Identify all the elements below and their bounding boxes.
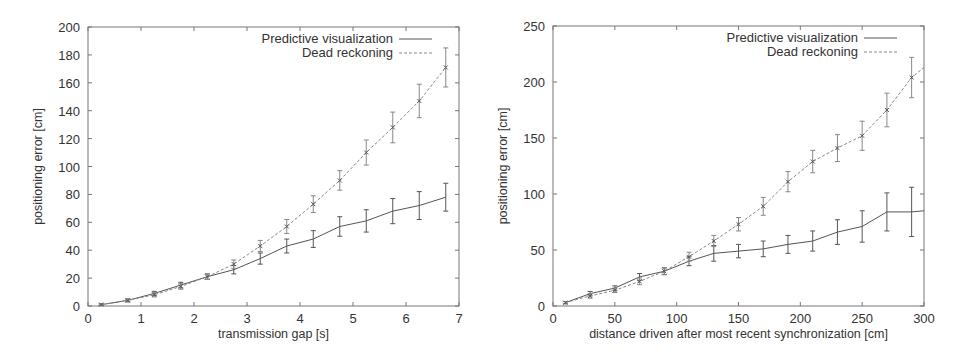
y-axis-label: positioning error [cm] xyxy=(31,108,45,225)
y-tick-label: 100 xyxy=(523,187,545,202)
y-tick-label: 160 xyxy=(58,76,80,91)
chart-transmission-gap: 01234567020406080100120140160180200trans… xyxy=(31,20,463,341)
x-tick-label: 100 xyxy=(666,311,688,326)
legend-predictive-visualization: Predictive visualization xyxy=(726,30,858,45)
y-tick-label: 80 xyxy=(66,187,80,202)
y-tick-label: 50 xyxy=(531,243,545,258)
y-tick-label: 20 xyxy=(66,271,80,286)
legend-predictive-visualization: Predictive visualization xyxy=(261,31,393,46)
x-tick-label: 3 xyxy=(243,311,250,326)
x-tick-label: 0 xyxy=(549,311,556,326)
x-tick-label: 2 xyxy=(190,311,197,326)
y-tick-label: 150 xyxy=(523,131,545,146)
x-tick-label: 200 xyxy=(789,311,811,326)
y-tick-label: 100 xyxy=(58,160,80,175)
x-tick-label: 5 xyxy=(349,311,356,326)
dead-reckoning-line xyxy=(565,67,924,302)
y-tick-label: 250 xyxy=(523,19,545,34)
y-tick-label: 200 xyxy=(523,75,545,90)
x-tick-label: 150 xyxy=(728,311,750,326)
x-axis-label: distance driven after most recent synchr… xyxy=(589,327,888,341)
x-tick-label: 1 xyxy=(137,311,144,326)
x-tick-label: 50 xyxy=(608,311,622,326)
y-tick-label: 40 xyxy=(66,243,80,258)
predictive-visualization-line xyxy=(101,197,446,304)
legend-dead-reckoning: Dead reckoning xyxy=(767,44,858,59)
y-tick-label: 180 xyxy=(58,48,80,63)
y-tick-label: 120 xyxy=(58,132,80,147)
y-tick-label: 140 xyxy=(58,104,80,119)
y-tick-label: 0 xyxy=(538,299,545,314)
plot-frame xyxy=(88,27,459,306)
dead-reckoning-line xyxy=(101,67,446,304)
y-tick-label: 60 xyxy=(66,215,80,230)
y-tick-label: 0 xyxy=(73,299,80,314)
x-tick-label: 6 xyxy=(402,311,409,326)
x-axis-label: transmission gap [s] xyxy=(218,327,329,341)
y-tick-label: 200 xyxy=(58,20,80,35)
x-tick-label: 4 xyxy=(296,311,303,326)
figure-canvas: 01234567020406080100120140160180200trans… xyxy=(0,0,963,358)
plot-frame xyxy=(553,26,924,306)
x-tick-label: 7 xyxy=(455,311,462,326)
y-axis-label: positioning error [cm] xyxy=(496,108,510,225)
x-tick-label: 0 xyxy=(84,311,91,326)
legend-dead-reckoning: Dead reckoning xyxy=(302,45,393,60)
x-tick-label: 250 xyxy=(851,311,873,326)
chart-distance-driven: 050100150200250300050100150200250distanc… xyxy=(496,19,935,341)
x-tick-label: 300 xyxy=(913,311,935,326)
